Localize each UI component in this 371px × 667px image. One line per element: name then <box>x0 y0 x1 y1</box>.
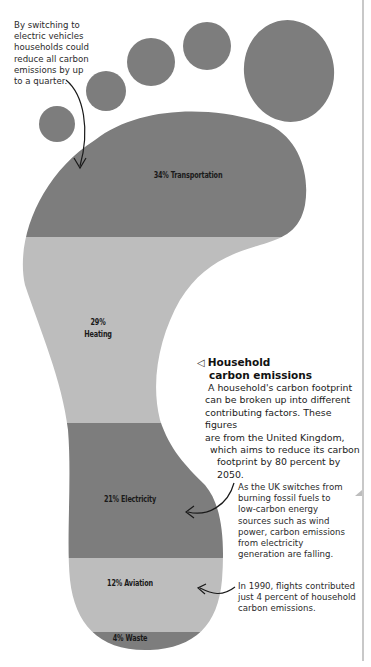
chart-caption: ◁Household carbon emissions A household'… <box>197 356 365 481</box>
caption-body-line: can be broken up into different <box>197 394 365 406</box>
label-heating: 29% Heating <box>73 316 124 340</box>
label-aviation: 12% Aviation <box>96 578 164 588</box>
label-heating-name: Heating <box>73 328 124 340</box>
caption-body-line: A household's carbon footprint <box>197 382 365 394</box>
annotation-transport: By switching to electric vehicles househ… <box>14 20 114 87</box>
annotation-line: In 1990, flights contributed <box>238 581 363 592</box>
annotation-line: low-carbon energy <box>238 504 363 515</box>
annotation-line: By switching to <box>14 20 114 31</box>
caption-title-line1: Household <box>208 356 271 368</box>
caption-body-line: are from the United Kingdom, <box>197 432 365 444</box>
caption-title: ◁Household <box>197 356 365 369</box>
page-divider <box>362 0 364 661</box>
caption-body-line: footprint by 80 percent by 2050. <box>197 456 365 481</box>
annotation-line: households could <box>14 42 114 53</box>
caption-body-line: which aims to reduce its carbon <box>197 444 365 456</box>
annotation-line: sources such as wind <box>238 516 363 527</box>
annotation-line: to a quarter. <box>14 76 114 87</box>
annotation-electricity: As the UK switches from burning fossil f… <box>238 482 363 560</box>
caption-body: A household's carbon footprint can be br… <box>197 382 365 481</box>
annotation-line: emissions by up <box>14 65 114 76</box>
annotation-line: electric vehicles <box>14 31 114 42</box>
annotation-line: As the UK switches from <box>238 482 363 493</box>
toe-little <box>39 106 75 142</box>
annotation-line: generation are falling. <box>238 549 363 560</box>
segment-waste <box>0 632 371 662</box>
divider-tick-icon <box>355 490 362 496</box>
annotation-line: reduce all carbon <box>14 54 114 65</box>
annotation-line: just 4 percent of household <box>238 592 363 603</box>
triangle-left-icon: ◁ <box>197 357 205 368</box>
toe-big <box>237 14 340 128</box>
label-heating-percent: 29% <box>73 316 124 328</box>
annotation-line: power, carbon emissions <box>238 527 363 538</box>
label-transportation: 34% Transportation <box>129 170 248 180</box>
footprint-chart <box>0 0 371 667</box>
annotation-aviation: In 1990, flights contributed just 4 perc… <box>238 581 363 615</box>
toe-third <box>127 38 175 86</box>
annotation-line: from electricity <box>238 538 363 549</box>
annotation-line: carbon emissions. <box>238 603 363 614</box>
label-electricity: 21% Electricity <box>88 494 173 504</box>
caption-body-line: contributing factors. These figures <box>197 407 365 432</box>
caption-title-line2: carbon emissions <box>197 369 365 382</box>
label-waste: 4% Waste <box>105 633 156 643</box>
annotation-line: burning fossil fuels to <box>238 493 363 504</box>
infographic-page: 34% Transportation 29% Heating 21% Elect… <box>0 0 371 667</box>
toe-second <box>183 22 231 70</box>
